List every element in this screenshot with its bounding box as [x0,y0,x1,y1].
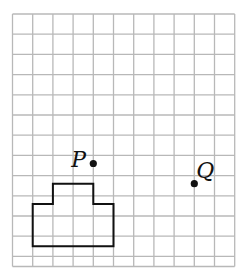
grid-figure: PQ [0,0,246,273]
point-q-label: Q [196,158,214,183]
point-p-label: P [70,147,87,172]
grid-lines [13,14,235,267]
point-p-dot [90,160,97,167]
points-layer: PQ [70,147,214,187]
